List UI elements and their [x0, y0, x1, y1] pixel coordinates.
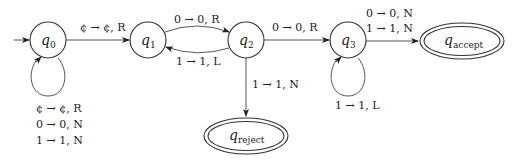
label-q1-q2: 0 → 0, R — [174, 13, 220, 26]
label-q0-q0-1: ¢ → ¢, R — [36, 102, 82, 115]
label-q3-qaccept-2: 1 → 1, N — [366, 22, 413, 35]
edge-q3-q3 — [331, 58, 365, 96]
edge-q0-q0 — [31, 58, 65, 96]
state-diagram: q0 q1 q2 q3 qaccept qreject ¢ → ¢, R ¢ →… — [0, 0, 518, 166]
edge-q1-q2 — [165, 26, 229, 32]
label-q3-q3: 1 → 1, L — [335, 99, 380, 112]
label-q2-q3: 0 → 0, R — [272, 21, 318, 34]
state-q1: q1 — [130, 22, 166, 58]
edge-q2-q1 — [166, 47, 229, 53]
state-qreject: qreject — [204, 118, 288, 154]
label-q2-q1: 1 → 1, L — [176, 55, 221, 68]
label-q0-q0-3: 1 → 1, N — [36, 134, 83, 147]
label-q0-q0-2: 0 → 0, N — [36, 118, 83, 131]
label-q2-qreject: 1 → 1, N — [252, 78, 299, 91]
state-q0: q0 — [30, 22, 66, 58]
label-q0-q1: ¢ → ¢, R — [80, 21, 126, 34]
state-q2: q2 — [228, 22, 264, 58]
state-q3: q3 — [330, 22, 366, 58]
state-qaccept: qaccept — [420, 23, 504, 59]
label-q3-qaccept-1: 0 → 0, N — [366, 7, 413, 20]
